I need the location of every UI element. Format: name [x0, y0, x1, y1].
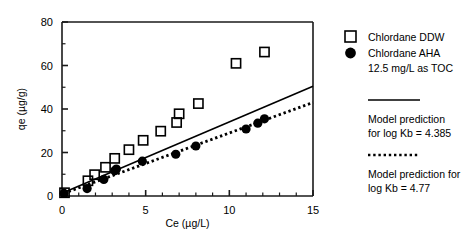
x-tick-label: 15: [307, 204, 319, 216]
chart-figure: 051015 020406080 Ce (µg/L) qe (µg/g) Chl…: [0, 0, 476, 244]
x-tick-label: 0: [59, 204, 65, 216]
data-point-aha: [112, 164, 121, 173]
y-axis-ticks: [62, 22, 68, 196]
y-tick-label: 0: [47, 190, 53, 202]
y-tick-label: 20: [41, 147, 53, 159]
data-point-ddw: [231, 59, 240, 68]
data-point-aha: [59, 189, 68, 198]
y-tick-label: 40: [41, 103, 53, 115]
chart-legend: Chlordane DDW Chlordane AHA 12.5 mg/L as…: [345, 31, 461, 194]
data-point-ddw: [124, 145, 133, 154]
legend-open-square-icon: [345, 31, 356, 42]
data-point-ddw: [172, 118, 181, 127]
data-point-ddw: [110, 154, 119, 163]
data-point-ddw: [175, 109, 184, 118]
data-point-aha: [191, 141, 200, 150]
scatter-chart: 051015 020406080 Ce (µg/L) qe (µg/g) Chl…: [0, 0, 476, 244]
series-chlordane-ddw: [60, 47, 269, 197]
y-axis-title: qe (µg/g): [15, 88, 27, 130]
x-tick-label: 5: [143, 204, 149, 216]
legend-label-toc: 12.5 mg/L as TOC: [368, 62, 453, 74]
data-point-ddw: [139, 136, 148, 145]
x-axis-ticks: [62, 190, 313, 196]
data-point-aha: [171, 150, 180, 159]
x-axis-title: Ce (µg/L): [166, 217, 210, 229]
y-tick-label: 80: [41, 16, 53, 28]
legend-filled-circle-icon: [345, 48, 356, 59]
legend-label-aha: Chlordane AHA: [368, 47, 440, 59]
data-point-ddw: [194, 99, 203, 108]
y-tick-label: 60: [41, 60, 53, 72]
y-axis-tick-labels: 020406080: [41, 16, 53, 202]
legend-label-ddw: Chlordane DDW: [368, 31, 445, 43]
data-point-aha: [83, 184, 92, 193]
x-axis-tick-labels: 051015: [59, 204, 319, 216]
data-point-aha: [99, 175, 108, 184]
data-point-aha: [260, 114, 269, 123]
data-point-ddw: [101, 163, 110, 172]
data-point-ddw: [156, 127, 165, 136]
x-tick-label: 10: [223, 204, 235, 216]
legend-model-solid-line1: Model prediction: [368, 113, 445, 125]
data-point-ddw: [260, 47, 269, 56]
legend-model-dotted-line2: log Kb = 4.77: [368, 182, 430, 194]
data-point-aha: [241, 124, 250, 133]
legend-model-dotted-line1: Model prediction for: [368, 168, 461, 180]
data-point-aha: [138, 157, 147, 166]
legend-model-solid-line2: for log Kb = 4.385: [368, 127, 451, 139]
